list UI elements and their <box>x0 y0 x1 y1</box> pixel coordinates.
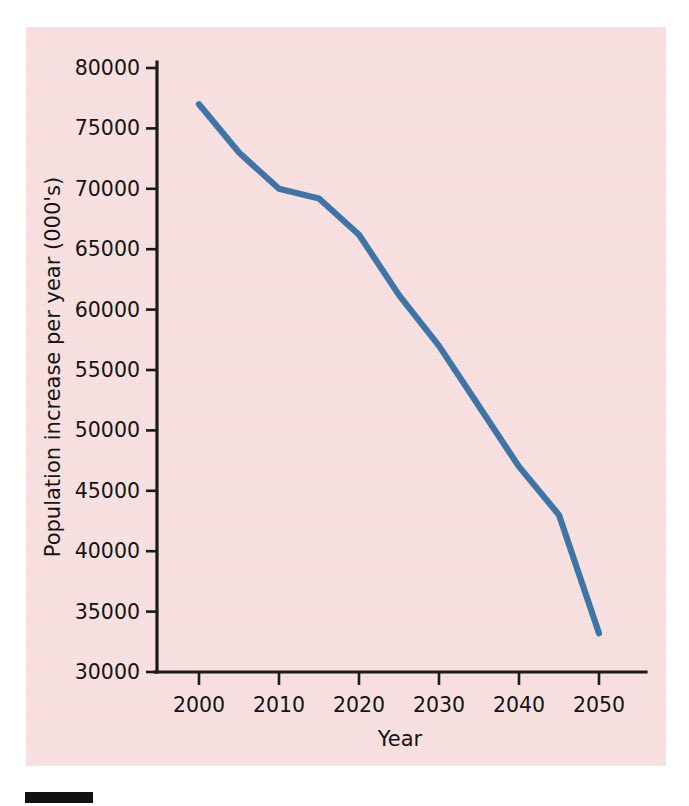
y-tick-label: 50000 <box>75 418 140 442</box>
y-tick-label: 60000 <box>75 298 140 322</box>
y-tick-label: 65000 <box>75 237 140 261</box>
data-series-line <box>199 104 599 633</box>
x-axis-title: Year <box>377 727 423 751</box>
y-tick-label: 75000 <box>75 116 140 140</box>
y-axis-tick-labels: 3000035000400004500050000550006000065000… <box>75 56 140 684</box>
x-axis-ticks <box>199 672 599 685</box>
y-tick-label: 40000 <box>75 539 140 563</box>
y-tick-label: 35000 <box>75 600 140 624</box>
y-tick-label: 70000 <box>75 177 140 201</box>
y-axis-title: Population increase per year (000's) <box>41 177 65 557</box>
y-tick-label: 55000 <box>75 358 140 382</box>
x-tick-label: 2000 <box>173 693 225 717</box>
x-axis-tick-labels: 200020102020203020402050 <box>173 693 625 717</box>
line-chart: 3000035000400004500050000550006000065000… <box>0 0 689 806</box>
x-tick-label: 2040 <box>493 693 545 717</box>
x-tick-label: 2030 <box>413 693 465 717</box>
figure-page: 3000035000400004500050000550006000065000… <box>0 0 689 806</box>
y-tick-label: 80000 <box>75 56 140 80</box>
y-tick-label: 30000 <box>75 660 140 684</box>
y-tick-label: 45000 <box>75 479 140 503</box>
figure-marker-bar <box>25 792 93 803</box>
x-tick-label: 2010 <box>253 693 305 717</box>
x-tick-label: 2020 <box>333 693 385 717</box>
x-tick-label: 2050 <box>573 693 625 717</box>
